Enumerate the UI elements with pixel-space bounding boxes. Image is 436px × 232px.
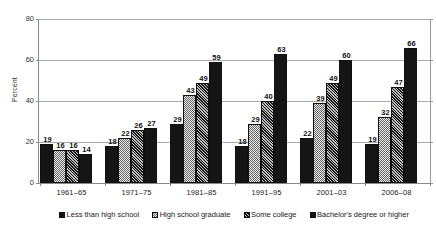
bar-slot: 63 [274, 19, 287, 183]
bar[interactable]: 66 [404, 48, 417, 183]
bar[interactable]: 18 [235, 146, 248, 183]
legend-item[interactable]: Some college [244, 210, 297, 219]
bar[interactable]: 32 [378, 117, 391, 183]
bar-slot: 16 [53, 19, 66, 183]
x-axis-tick-mark [105, 183, 106, 186]
y-axis-tick-mark-right [430, 60, 433, 61]
bar-value-label: 27 [139, 119, 164, 128]
x-axis-tick-mark [235, 183, 236, 186]
bar-group-bars: 19161614 [40, 19, 105, 183]
legend-item-label: High school graduate [160, 210, 231, 219]
bar-slot: 49 [326, 19, 339, 183]
bar[interactable]: 29 [248, 124, 261, 183]
bar[interactable]: 40 [261, 101, 274, 183]
bar-group: 18294063 [235, 19, 300, 183]
bar-groups: 1916161418222627294349591829406322394960… [40, 19, 430, 183]
y-axis-tick-mark-right [430, 142, 433, 143]
legend-item-label: Less than high school [67, 210, 140, 219]
bar-group-bars: 18222627 [105, 19, 170, 183]
y-axis-tick-mark-right [430, 19, 433, 20]
bar-group-bars: 19324766 [365, 19, 430, 183]
bar[interactable]: 18 [105, 146, 118, 183]
legend-item[interactable]: Less than high school [59, 210, 139, 219]
bar[interactable]: 39 [313, 103, 326, 183]
bar-group: 18222627 [105, 19, 170, 183]
legend-item[interactable]: Bachelor's degree or higher [310, 210, 409, 219]
y-axis-tick-mark [36, 101, 39, 102]
x-axis-tick-labels: 1961–651971–751981–851991–952001–032006–… [39, 188, 429, 197]
legend-swatch-icon [310, 212, 316, 218]
bar-slot: 43 [183, 19, 196, 183]
y-axis-tick-mark [36, 60, 39, 61]
bar[interactable]: 14 [79, 154, 92, 183]
y-axis-tick-mark-right [430, 101, 433, 102]
bar-slot: 40 [261, 19, 274, 183]
bar-group: 19324766 [365, 19, 430, 183]
bar[interactable]: 63 [274, 54, 287, 183]
bar-slot: 49 [196, 19, 209, 183]
x-axis-tick-label: 1991–95 [234, 188, 299, 197]
bar-value-label: 66 [399, 39, 424, 48]
bar[interactable]: 22 [118, 138, 131, 183]
bar[interactable]: 27 [144, 128, 157, 183]
y-axis-tick-label: 0 [12, 179, 34, 187]
bar[interactable]: 43 [183, 95, 196, 183]
bar[interactable]: 49 [196, 83, 209, 183]
legend-swatch-icon [59, 212, 65, 218]
bar-slot: 27 [144, 19, 157, 183]
bar[interactable]: 60 [339, 60, 352, 183]
x-axis-tick-label: 2006–08 [364, 188, 429, 197]
bar-group: 19161614 [40, 19, 105, 183]
legend-item[interactable]: High school graduate [152, 210, 230, 219]
bar[interactable]: 19 [365, 144, 378, 183]
bar-slot: 29 [248, 19, 261, 183]
bar-group-bars: 22394960 [300, 19, 365, 183]
bar[interactable]: 26 [131, 130, 144, 183]
bar-slot: 32 [378, 19, 391, 183]
bar[interactable]: 59 [209, 62, 222, 183]
chart-legend: Less than high schoolHigh school graduat… [38, 210, 430, 219]
x-axis-tick-label: 1981–85 [169, 188, 234, 197]
plot-area: 1916161418222627294349591829406322394960… [38, 19, 431, 184]
bar-slot: 59 [209, 19, 222, 183]
x-axis-tick-marks [40, 183, 430, 187]
y-axis-tick-label: 40 [12, 97, 34, 105]
bar[interactable]: 47 [391, 87, 404, 183]
bar-chart-figure: Percent 020406080 1916161418222627294349… [0, 0, 436, 232]
bar-slot: 60 [339, 19, 352, 183]
x-axis-tick-label: 1961–65 [39, 188, 104, 197]
bar-slot: 19 [40, 19, 53, 183]
legend-swatch-icon [244, 212, 250, 218]
bar[interactable]: 16 [53, 150, 66, 183]
bar-group-bars: 18294063 [235, 19, 300, 183]
bar-group-bars: 29434959 [170, 19, 235, 183]
y-axis-tick-mark [36, 19, 39, 20]
bar-value-label: 60 [334, 51, 359, 60]
bar[interactable]: 22 [300, 138, 313, 183]
bar-slot: 29 [170, 19, 183, 183]
bar-group: 29434959 [170, 19, 235, 183]
legend-item-label: Bachelor's degree or higher [317, 210, 409, 219]
y-axis-tick-label: 60 [12, 56, 34, 64]
y-axis-tick-label: 80 [12, 15, 34, 23]
bar[interactable]: 16 [66, 150, 79, 183]
x-axis-tick-label: 2001–03 [299, 188, 364, 197]
bar[interactable]: 29 [170, 124, 183, 183]
bar-slot: 16 [66, 19, 79, 183]
bar-group: 22394960 [300, 19, 365, 183]
x-axis-tick-mark [430, 183, 431, 186]
x-axis-tick-mark [170, 183, 171, 186]
bar-slot: 14 [79, 19, 92, 183]
legend-swatch-icon [152, 212, 158, 218]
bar[interactable]: 49 [326, 83, 339, 183]
x-axis-tick-mark [365, 183, 366, 186]
bar-slot: 66 [404, 19, 417, 183]
x-axis-tick-mark [300, 183, 301, 186]
bar-slot: 39 [313, 19, 326, 183]
bar-value-label: 59 [204, 53, 229, 62]
y-axis-tick-labels: 020406080 [8, 0, 34, 232]
y-axis-tick-mark [36, 183, 39, 184]
y-axis-tick-label: 20 [12, 138, 34, 146]
bar-slot: 26 [131, 19, 144, 183]
bar-value-label: 14 [74, 145, 99, 154]
